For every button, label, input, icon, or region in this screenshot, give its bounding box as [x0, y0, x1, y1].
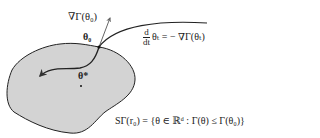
theta0-point [97, 45, 100, 48]
theta-star-label: θ* [78, 70, 88, 81]
derivative-fraction: d dt [143, 28, 150, 47]
theta-star-point [80, 85, 82, 87]
ode-rhs: θₜ = − ∇Γ(θₜ) [152, 31, 205, 42]
theta0-label: θ₀ [83, 31, 91, 42]
derivative-denominator: dt [143, 38, 150, 47]
ode-label: d dt θₜ = − ∇Γ(θₜ) [143, 28, 205, 47]
gradient-label: ∇Γ(θ₀) [68, 10, 97, 22]
gradient-vector-arrow [99, 18, 110, 47]
sublevel-set-label: SΓ(r₀) = {θ ∈ ℝᵈ : Γ(θ) ≤ Γ(θ₀)} [115, 115, 245, 126]
